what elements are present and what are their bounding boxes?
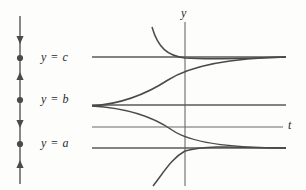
figure-container: y = c y = b y = a y t: [0, 0, 306, 190]
solution-curve-above-c: [152, 27, 286, 59]
phase-arrow-down-above-a: [16, 120, 23, 128]
phase-dot-b: [17, 97, 23, 103]
equilibrium-label-b: y = b: [41, 92, 69, 107]
equilibrium-label-c: y = c: [41, 50, 68, 65]
phase-dot-c: [17, 55, 23, 61]
y-axis-label: y: [181, 6, 186, 21]
phase-dot-a: [17, 141, 23, 147]
phase-line-group: [16, 16, 23, 184]
solution-curves-group: [92, 27, 286, 186]
t-axis-label: t: [288, 118, 291, 133]
solution-curve-b-to-c: [92, 57, 286, 106]
phase-arrow-up-below-c: [16, 72, 23, 80]
phase-arrow-down-above-c: [16, 36, 23, 44]
phase-arrow-up-below-a: [16, 160, 23, 168]
equilibrium-label-a: y = a: [41, 136, 69, 151]
axes-group: [92, 22, 283, 186]
solution-curve-below-a: [153, 147, 286, 186]
